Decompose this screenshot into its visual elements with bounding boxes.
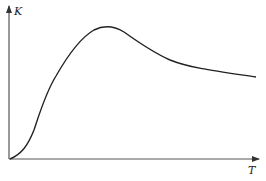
y-axis-label: K (13, 5, 23, 18)
k-curve (10, 27, 256, 159)
figure-canvas: K T (0, 0, 266, 181)
x-axis-label: T (248, 164, 257, 177)
